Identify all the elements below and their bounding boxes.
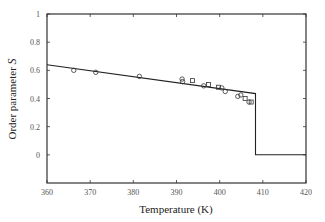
y-tick-label: 0.8 [30, 38, 40, 47]
plot-frame [47, 14, 306, 183]
y-axis-symbol: S [5, 58, 19, 64]
y-axis-title-text: Order parameter [6, 64, 18, 139]
x-tick-label: 380 [127, 188, 139, 197]
x-tick-label: 370 [84, 188, 96, 197]
y-axis: 00.20.40.60.81 [30, 10, 306, 160]
plot-area [47, 14, 306, 183]
data-point-square [206, 82, 210, 86]
y-tick-label: 0 [36, 151, 40, 160]
theory-line [47, 65, 306, 155]
x-tick-label: 390 [171, 188, 183, 197]
order-parameter-chart: 360370380390400410420 00.20.40.60.81 Tem… [0, 0, 325, 222]
x-tick-label: 360 [41, 188, 53, 197]
y-tick-label: 0.2 [30, 123, 40, 132]
x-tick-label: 420 [300, 188, 312, 197]
data-point-circle [94, 70, 98, 74]
data-point-square [243, 97, 247, 101]
x-axis: 360370380390400410420 [41, 14, 312, 197]
x-tick-label: 400 [214, 188, 226, 197]
y-tick-label: 1 [36, 10, 40, 19]
x-tick-label: 410 [257, 188, 269, 197]
y-axis-title: Order parameter S [5, 58, 19, 139]
y-tick-label: 0.6 [30, 66, 40, 75]
data-point-square [190, 79, 194, 83]
y-tick-label: 0.4 [30, 95, 40, 104]
x-axis-title: Temperature (K) [139, 203, 213, 216]
